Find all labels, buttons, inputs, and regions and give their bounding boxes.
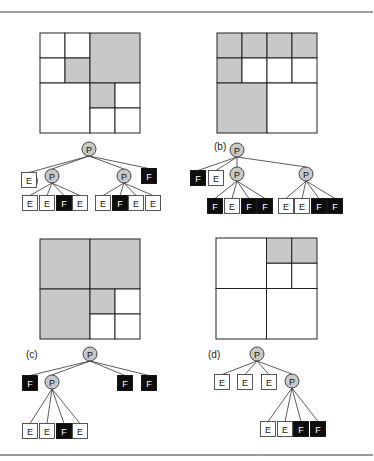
tree-edge (52, 183, 64, 196)
node-label: P (121, 172, 127, 182)
node-label: F (146, 379, 152, 389)
grid-cell-full (40, 239, 90, 289)
grid-cell-empty (40, 58, 65, 83)
node-label: E (44, 427, 50, 437)
node-label: P (289, 377, 295, 387)
node-label: F (117, 199, 123, 209)
grid-cell-full (90, 33, 140, 83)
grid-cell-full (267, 33, 292, 58)
node-label: P (87, 350, 93, 360)
tree-edge (292, 388, 318, 422)
grid-cell-full (217, 58, 242, 83)
node-label: E (213, 174, 219, 184)
tree-edge (198, 157, 237, 171)
figure-panels: (a)EEEFEPEFEEPFP(b)FEFEFFPEEFFPP(c)FEEFE… (22, 33, 343, 439)
node-label: P (254, 350, 260, 360)
node-label: F (315, 425, 321, 435)
tree-edge (232, 181, 237, 199)
node-label: E (265, 425, 271, 435)
grid-cell-full (40, 289, 90, 339)
grid-cell-empty (267, 289, 318, 340)
node-label: P (303, 170, 309, 180)
node-label: F (246, 202, 252, 212)
tree-edge (124, 183, 153, 196)
node-label: E (27, 427, 33, 437)
grid-cell-empty (267, 83, 317, 133)
grid-cell-empty (216, 238, 267, 289)
node-label: F (61, 199, 67, 209)
grid-cell-empty (242, 58, 267, 83)
quadtree-tree: EEEEEFFPP (215, 347, 326, 437)
grid-cell-empty (292, 263, 317, 288)
node-label: P (234, 170, 240, 180)
node-label: P (86, 145, 92, 155)
tree-edge (237, 181, 249, 199)
quadtree-figure: (a)EEEFEPEFEEPFP(b)FEFEFFPEEFFPP(c)FEEFE… (0, 0, 374, 461)
grid-cell-empty (115, 289, 140, 314)
panel-d: (d)EEEEEFFPP (208, 238, 326, 437)
tree-nodes: EEEFEPEFEEPFP (22, 142, 161, 211)
grid-cell-empty (267, 263, 292, 288)
grid-cell-full (267, 238, 292, 263)
quadtree-tree: EEEFEPEFEEPFP (22, 142, 161, 211)
quadtree-grid (40, 33, 140, 133)
tree-edge (306, 181, 335, 199)
tree-edge (52, 361, 90, 375)
tree-edge (30, 361, 90, 376)
node-label: E (283, 202, 289, 212)
quadtree-grid (217, 33, 317, 133)
tree-edge (306, 181, 319, 199)
panel-b: (b)FEFEFFPEEFFPP (191, 33, 343, 214)
node-label: F (212, 202, 218, 212)
node-label: E (299, 202, 305, 212)
grid-cell-empty (267, 58, 292, 83)
tree-edge (222, 361, 257, 375)
node-label: E (242, 378, 248, 388)
panel-label: (b) (214, 141, 226, 152)
tree-edge (52, 389, 80, 424)
grid-cell-empty (115, 314, 140, 339)
panel-a: (a)EEEFEPEFEEPFP (22, 33, 161, 211)
quadtree-tree: FEFEFFPEEFFPP (191, 143, 343, 214)
node-label: F (316, 202, 322, 212)
grid-cell-full (90, 239, 140, 289)
tree-edge (52, 183, 80, 196)
grid-cell-empty (216, 289, 267, 340)
node-label: F (262, 202, 268, 212)
tree-edge (292, 388, 301, 422)
node-label: E (77, 199, 83, 209)
grid-cell-empty (40, 33, 65, 58)
tree-nodes: FEFEFFPEEFFPP (191, 143, 343, 214)
node-label: F (27, 379, 33, 389)
grid-cell-empty (90, 108, 115, 133)
tree-edge (89, 156, 149, 169)
node-label: E (100, 199, 106, 209)
node-label: E (27, 199, 33, 209)
grid-cell-full (217, 33, 242, 58)
node-label: E (219, 378, 225, 388)
node-label: E (266, 378, 272, 388)
tree-nodes: FEEFEPFFP (23, 347, 157, 439)
quadtree-tree: FEEFEPFFP (23, 347, 157, 439)
node-label: E (133, 199, 139, 209)
grid-cell-full (65, 58, 90, 83)
node-label: E (282, 425, 288, 435)
tree-edge (29, 156, 89, 173)
tree-edge (30, 389, 52, 424)
node-label: P (234, 146, 240, 156)
node-label: P (49, 378, 55, 388)
node-label: P (49, 172, 55, 182)
node-label: F (332, 202, 338, 212)
panel-label: (c) (26, 349, 38, 360)
grid-cell-full (242, 33, 267, 58)
node-label: E (150, 199, 156, 209)
node-label: E (77, 427, 83, 437)
grid-cell-empty (65, 33, 90, 58)
tree-edge (124, 183, 136, 196)
tree-edge (237, 157, 306, 167)
node-label: F (146, 172, 152, 182)
panel-c: (c)FEEFEPFFP (23, 239, 157, 439)
node-label: F (195, 174, 201, 184)
node-label: E (229, 202, 235, 212)
quadtree-grid (216, 238, 317, 339)
